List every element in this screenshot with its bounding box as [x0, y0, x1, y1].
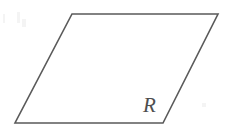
- region-label-R: R: [142, 93, 156, 117]
- parallelogram-figure: R: [0, 0, 229, 137]
- parallelogram-outline: [15, 14, 218, 123]
- figure-canvas: R: [0, 0, 229, 137]
